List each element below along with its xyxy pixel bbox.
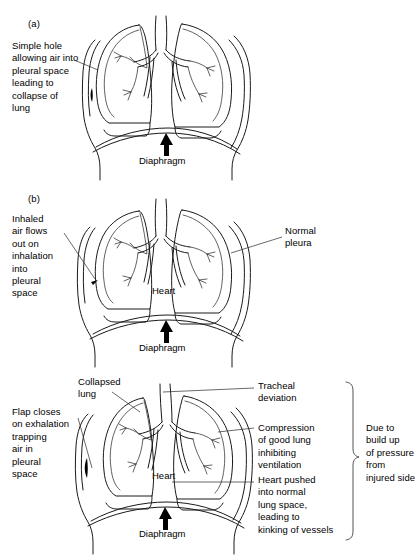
panel-c-brace xyxy=(346,382,359,540)
panel-c-compression-leader xyxy=(218,428,254,432)
panel-c-artwork xyxy=(0,370,415,558)
panel-a-artwork xyxy=(0,0,415,185)
panel-c-tracheal-leader xyxy=(163,388,254,392)
panel-b-artwork xyxy=(0,185,415,370)
panel-b: (b) Inhaled air flows out on inhalation … xyxy=(0,185,415,370)
panel-c: Collapsed lung Flap closes on exhalation… xyxy=(0,370,415,558)
panel-b-left-leader xyxy=(64,233,95,279)
panel-a-diaphragm-arrow xyxy=(160,133,173,156)
panel-a-leader xyxy=(74,60,98,70)
panel-a: (a) Simple hole allowing air into pleura… xyxy=(0,0,415,185)
panel-c-collapsed-lung-leader xyxy=(112,392,140,412)
panel-c-flap-leader xyxy=(78,418,92,468)
